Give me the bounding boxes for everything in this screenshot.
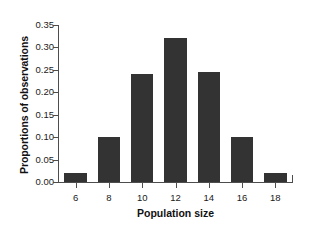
bar [98,137,120,182]
y-axis-tick-mark [53,115,59,116]
y-axis-tick-label: 0.25 [26,65,54,75]
bar [231,137,253,182]
y-axis-tick-mark [53,92,59,93]
y-axis-tick-labels: 0.000.050.100.150.200.250.300.35 [26,0,54,231]
y-axis-tick-label: 0.05 [26,155,54,165]
y-axis-tick-label: 0.10 [26,132,54,142]
x-axis-tick-mark [275,183,276,188]
x-axis-tick-label: 8 [94,192,124,203]
y-axis-tick-mark [53,137,59,138]
y-axis-tick-mark [53,47,59,48]
x-axis-tick-mark [76,183,77,188]
y-axis-tick-mark [53,182,59,183]
x-axis-tick-mark [242,183,243,188]
bar [264,173,286,182]
plot-area [59,25,292,182]
bar [198,72,220,182]
x-axis-title: Population size [59,207,292,219]
bar-chart: Proportions of observations 0.000.050.10… [0,0,311,231]
y-axis-tick-mark [53,25,59,26]
x-axis-end-tick [292,175,293,183]
x-axis-tick-mark [142,183,143,188]
x-axis-tick-label: 10 [127,192,157,203]
y-axis-tick-label: 0.15 [26,110,54,120]
x-axis-tick-label: 18 [260,192,290,203]
x-axis-tick-mark [176,183,177,188]
x-axis-tick-mark [209,183,210,188]
y-axis-tick-mark [53,160,59,161]
x-axis-tick-label: 6 [61,192,91,203]
x-axis-tick-label: 16 [227,192,257,203]
bar [64,173,86,182]
x-axis-tick-label: 12 [161,192,191,203]
y-axis-tick-label: 0.00 [26,177,54,187]
bar [131,74,153,182]
y-axis-tick-label: 0.35 [26,20,54,30]
x-axis-tick-mark [109,183,110,188]
y-axis-tick-label: 0.20 [26,87,54,97]
x-axis-tick-label: 14 [194,192,224,203]
y-axis-tick-label: 0.30 [26,42,54,52]
bar [164,38,186,182]
y-axis-tick-mark [53,70,59,71]
